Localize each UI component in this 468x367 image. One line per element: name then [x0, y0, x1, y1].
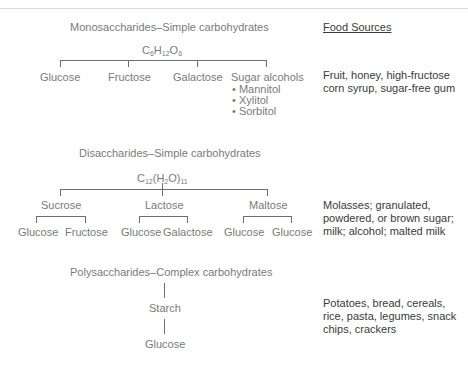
food-line: milk; alcohol; malted milk	[323, 225, 454, 238]
maltose-bracket-tick	[291, 216, 292, 223]
food-line: corn syrup, sugar-free gum	[323, 82, 455, 95]
monosaccharides-formula: C6H12O6	[142, 44, 182, 57]
lactose-bracket-tick	[139, 216, 140, 223]
di-food-sources: Molasses; granulated, powdered, or brown…	[323, 199, 454, 238]
sucrose-bracket	[36, 216, 86, 217]
food-line: Molasses; granulated,	[323, 199, 454, 212]
mono-bracket-horizontal	[60, 60, 267, 61]
sugar-alcohol-sorbitol: • Sorbitol	[232, 105, 276, 118]
mono-bracket-tick	[197, 60, 198, 67]
di-item-sucrose: Sucrose	[41, 199, 81, 212]
sucrose-bracket-tick	[36, 216, 37, 223]
maltose-bracket	[243, 216, 292, 217]
poly-item-glucose: Glucose	[145, 338, 185, 351]
food-line: chips, crackers	[323, 323, 456, 336]
mono-item-glucose: Glucose	[40, 71, 80, 84]
sucrose-bracket-tick	[85, 216, 86, 223]
top-divider	[0, 8, 468, 9]
di-bracket-tick	[162, 183, 163, 196]
di-item-lactose: Lactose	[145, 199, 184, 212]
mono-bracket-tick	[60, 60, 61, 67]
disaccharides-title: Disaccharides–Simple carbohydrates	[79, 147, 261, 160]
mono-item-galactose: Galactose	[173, 71, 223, 84]
mono-item-fructose: Fructose	[108, 71, 151, 84]
mono-bracket-tick	[266, 60, 267, 67]
polysaccharides-title: Polysaccharides–Complex carbohydrates	[70, 266, 272, 279]
poly-food-sources: Potatoes, bread, cereals, rice, pasta, l…	[323, 297, 456, 336]
di-bracket-horizontal	[60, 189, 268, 190]
poly-connector	[164, 283, 165, 298]
di-item-maltose: Maltose	[249, 199, 288, 212]
food-line: rice, pasta, legumes, snack	[323, 310, 456, 323]
food-line: Potatoes, bread, cereals,	[323, 297, 456, 310]
mono-food-sources: Fruit, honey, high-fructose corn syrup, …	[323, 69, 455, 95]
food-sources-heading: Food Sources	[323, 21, 391, 34]
maltose-component: Glucose	[224, 226, 264, 239]
di-bracket-tick	[60, 189, 61, 196]
lactose-bracket-tick	[187, 216, 188, 223]
lactose-component: Galactose	[163, 226, 213, 239]
food-line: Fruit, honey, high-fructose	[323, 69, 455, 82]
food-line: powdered, or brown sugar;	[323, 212, 454, 225]
sucrose-component: Fructose	[65, 226, 108, 239]
di-bracket-tick	[267, 189, 268, 196]
lactose-component: Glucose	[121, 226, 161, 239]
poly-connector	[164, 319, 165, 334]
mono-bracket-tick	[128, 60, 129, 67]
poly-item-starch: Starch	[149, 302, 181, 315]
sucrose-component: Glucose	[18, 226, 58, 239]
maltose-component: Glucose	[272, 226, 312, 239]
maltose-bracket-tick	[243, 216, 244, 223]
monosaccharides-title: Monosaccharides–Simple carbohydrates	[70, 21, 269, 34]
lactose-bracket	[139, 216, 188, 217]
